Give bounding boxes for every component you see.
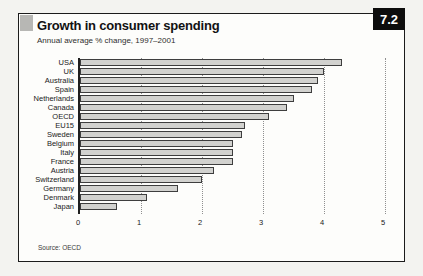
bar-zone — [80, 202, 385, 211]
category-label: Australia — [23, 76, 78, 85]
bar-switzerland — [80, 176, 202, 183]
category-label: Austria — [23, 166, 78, 175]
bar-zone — [80, 67, 385, 76]
chart-row: France — [23, 157, 395, 166]
chart-row: Japan — [23, 202, 395, 211]
chart-row: Australia — [23, 76, 395, 85]
x-tick-label: 5 — [381, 218, 385, 227]
bar-japan — [80, 203, 117, 210]
figure-number-badge: 7.2 — [373, 8, 405, 30]
bar-zone — [80, 157, 385, 166]
bar-denmark — [80, 194, 147, 201]
bar-germany — [80, 185, 178, 192]
bar-spain — [80, 86, 312, 93]
x-tick-label: 0 — [76, 218, 80, 227]
corner-tab-decoration — [20, 15, 33, 31]
category-label: Spain — [23, 85, 78, 94]
category-label: Italy — [23, 148, 78, 157]
category-label: Japan — [23, 202, 78, 211]
chart-row: Sweden — [23, 130, 395, 139]
category-label: OECD — [23, 112, 78, 121]
chart-row: OECD — [23, 112, 395, 121]
category-label: Denmark — [23, 193, 78, 202]
bar-italy — [80, 149, 233, 156]
bar-zone — [80, 166, 385, 175]
category-label: Sweden — [23, 130, 78, 139]
bar-eu15 — [80, 122, 245, 129]
bar-uk — [80, 68, 324, 75]
chart-row: Spain — [23, 85, 395, 94]
bar-zone — [80, 121, 385, 130]
figure-card: 7.2 Growth in consumer spending Annual a… — [18, 13, 405, 262]
bar-zone — [80, 148, 385, 157]
category-label: Belgium — [23, 139, 78, 148]
chart-row: Switzerland — [23, 175, 395, 184]
bar-zone — [80, 58, 385, 67]
chart-row: Belgium — [23, 139, 395, 148]
bar-netherlands — [80, 95, 294, 102]
bar-canada — [80, 104, 287, 111]
bar-oecd — [80, 113, 269, 120]
x-tick-label: 3 — [259, 218, 263, 227]
chart-row: Netherlands — [23, 94, 395, 103]
x-tick-label: 2 — [198, 218, 202, 227]
chart-row: Germany — [23, 184, 395, 193]
bar-sweden — [80, 131, 242, 138]
chart-row: Italy — [23, 148, 395, 157]
bar-austria — [80, 167, 214, 174]
category-label: France — [23, 157, 78, 166]
bar-zone — [80, 193, 385, 202]
bar-chart: USAUKAustraliaSpainNetherlandsCanadaOECD… — [23, 58, 395, 228]
bar-zone — [80, 184, 385, 193]
x-axis-ticks: 012345 — [78, 218, 398, 228]
chart-title: Growth in consumer spending — [37, 18, 219, 33]
bar-rows: USAUKAustraliaSpainNetherlandsCanadaOECD… — [23, 58, 395, 211]
chart-row: Austria — [23, 166, 395, 175]
x-tick-label: 1 — [137, 218, 141, 227]
source-note: Source: OECD — [38, 244, 81, 251]
bar-zone — [80, 85, 385, 94]
chart-row: EU15 — [23, 121, 395, 130]
bar-usa — [80, 59, 342, 66]
bar-france — [80, 158, 233, 165]
category-label: Netherlands — [23, 94, 78, 103]
bar-zone — [80, 175, 385, 184]
chart-row: Canada — [23, 103, 395, 112]
chart-row: Denmark — [23, 193, 395, 202]
x-tick-label: 4 — [320, 218, 324, 227]
category-label: Germany — [23, 184, 78, 193]
category-label: USA — [23, 58, 78, 67]
bar-zone — [80, 76, 385, 85]
chart-subtitle: Annual average % change, 1997–2001 — [37, 36, 175, 45]
bar-zone — [80, 103, 385, 112]
bar-zone — [80, 139, 385, 148]
category-label: EU15 — [23, 121, 78, 130]
category-label: Switzerland — [23, 175, 78, 184]
bar-zone — [80, 130, 385, 139]
bar-australia — [80, 77, 318, 84]
bar-zone — [80, 94, 385, 103]
category-label: UK — [23, 67, 78, 76]
chart-row: USA — [23, 58, 395, 67]
chart-row: UK — [23, 67, 395, 76]
bar-zone — [80, 112, 385, 121]
bar-belgium — [80, 140, 233, 147]
category-label: Canada — [23, 103, 78, 112]
